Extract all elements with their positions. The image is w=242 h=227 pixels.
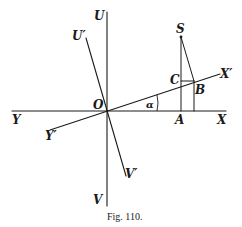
label-o: O bbox=[93, 98, 104, 112]
label-u-prime: U′ bbox=[72, 29, 86, 43]
label-s: S bbox=[176, 22, 185, 36]
label-v: V bbox=[93, 193, 104, 207]
label-alpha: α bbox=[146, 99, 154, 110]
figure-caption: Fig. 110. bbox=[107, 211, 142, 222]
label-v-prime: V′ bbox=[125, 167, 138, 181]
label-b: B bbox=[194, 83, 205, 97]
label-x: X bbox=[216, 113, 227, 127]
label-a: A bbox=[174, 113, 184, 127]
figure-110: U U′ O S C B X′ α Y A X Y′ V′ V Fig. 110… bbox=[0, 0, 242, 227]
label-y: Y bbox=[12, 113, 22, 127]
label-y-prime: Y′ bbox=[45, 129, 58, 143]
angle-alpha-arc bbox=[157, 95, 158, 111]
label-c: C bbox=[170, 73, 180, 87]
label-u: U bbox=[94, 9, 106, 23]
diagram-canvas: U U′ O S C B X′ α Y A X Y′ V′ V Fig. 110… bbox=[0, 0, 242, 227]
label-x-prime: X′ bbox=[219, 67, 233, 81]
point-s bbox=[180, 36, 183, 39]
line-s-b bbox=[181, 37, 194, 81]
